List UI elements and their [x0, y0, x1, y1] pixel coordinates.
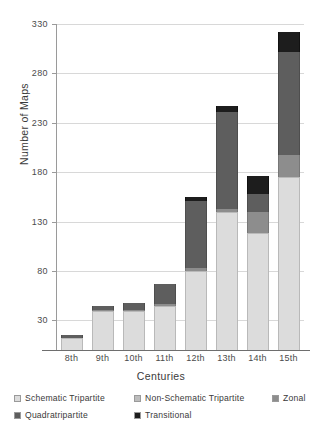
bar-segment-15th-zonal[interactable] [278, 155, 300, 177]
bar-segment-11th-quadratripartite[interactable] [154, 284, 176, 304]
legend-label: Zonal [283, 393, 306, 403]
x-axis-title: Centuries [0, 370, 322, 382]
bar-11th[interactable] [154, 284, 176, 350]
legend-item-non-schematic-tripartite[interactable]: Non-Schematic Tripartite [134, 393, 244, 403]
y-axis-tick-label: 30 [14, 315, 48, 325]
y-axis-tick-label: 280 [14, 68, 48, 78]
legend-row: Schematic TripartiteNon-Schematic Tripar… [14, 393, 314, 405]
legend-swatch-icon [272, 395, 279, 402]
bar-segment-12th-schematic-tripartite[interactable] [185, 271, 207, 350]
bar-segment-15th-schematic-tripartite[interactable] [278, 177, 300, 350]
legend-item-zonal[interactable]: Zonal [272, 393, 306, 403]
y-axis-tick-label: 230 [14, 118, 48, 128]
y-axis-tick-label: 80 [14, 266, 48, 276]
bar-segment-10th-schematic-tripartite[interactable] [123, 311, 145, 351]
x-axis-tick-label-15th: 15th [266, 353, 312, 363]
chart-legend: Schematic TripartiteNon-Schematic Tripar… [14, 393, 314, 427]
bar-segment-8th-schematic-tripartite[interactable] [61, 338, 83, 350]
bar-13th[interactable] [216, 106, 238, 350]
legend-label: Quadratripartite [25, 410, 88, 420]
bar-12th[interactable] [185, 197, 207, 350]
bar-segment-9th-schematic-tripartite[interactable] [92, 311, 114, 351]
bar-segment-10th-quadratripartite[interactable] [123, 303, 145, 310]
bar-segment-14th-zonal[interactable] [247, 212, 269, 234]
legend-label: Transitional [145, 410, 192, 420]
bar-segment-13th-schematic-tripartite[interactable] [216, 212, 238, 350]
bar-10th[interactable] [123, 303, 145, 350]
legend-label: Non-Schematic Tripartite [145, 393, 244, 403]
bar-8th[interactable] [61, 335, 83, 350]
legend-label: Schematic Tripartite [25, 393, 105, 403]
legend-row: QuadratripartiteTransitional [14, 410, 314, 422]
y-axis-tick-label: 330 [14, 19, 48, 29]
legend-swatch-icon [14, 395, 21, 402]
bar-segment-15th-transitional[interactable] [278, 32, 300, 52]
y-axis-tick-label: 180 [14, 167, 48, 177]
stacked-bar-chart: Number of Maps 3080130180230280330 8th9t… [0, 0, 322, 442]
legend-swatch-icon [134, 412, 141, 419]
legend-item-quadratripartite[interactable]: Quadratripartite [14, 410, 88, 420]
bar-segment-14th-transitional[interactable] [247, 176, 269, 194]
bar-segment-14th-schematic-tripartite[interactable] [247, 233, 269, 350]
x-axis-line [42, 350, 310, 351]
bar-segment-11th-schematic-tripartite[interactable] [154, 306, 176, 350]
bar-9th[interactable] [92, 306, 114, 350]
legend-swatch-icon [134, 395, 141, 402]
plot-area [56, 24, 304, 350]
bar-15th[interactable] [278, 32, 300, 350]
y-axis-tick-label: 130 [14, 217, 48, 227]
bar-segment-15th-quadratripartite[interactable] [278, 52, 300, 156]
bar-segment-14th-quadratripartite[interactable] [247, 194, 269, 212]
legend-swatch-icon [14, 412, 21, 419]
legend-item-schematic-tripartite[interactable]: Schematic Tripartite [14, 393, 105, 403]
bar-segment-13th-quadratripartite[interactable] [216, 112, 238, 209]
bar-segment-12th-quadratripartite[interactable] [185, 201, 207, 268]
legend-item-transitional[interactable]: Transitional [134, 410, 192, 420]
bar-14th[interactable] [247, 176, 269, 350]
